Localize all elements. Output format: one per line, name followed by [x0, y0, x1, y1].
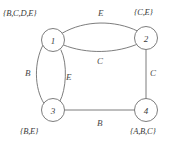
edge-label-1-2-upper: E [98, 9, 104, 18]
node-4-label: 4 [144, 106, 149, 116]
edge-label-1-3-left: B [25, 69, 31, 78]
edge-label-3-4: B [97, 119, 103, 128]
edge-1-2-lower [64, 43, 141, 52]
edge-1-2-upper [63, 23, 138, 33]
edge-label-1-2-lower: C [97, 57, 103, 66]
set-label-node-3: {B,E} [20, 127, 38, 136]
edge-label-1-3-right: E [66, 73, 72, 82]
node-2-label: 2 [144, 34, 149, 44]
set-label-node-4: {A,B,C} [130, 127, 156, 136]
edge-1-3-left [36, 45, 44, 104]
graph-diagram: 1 2 3 4 E C B E C B {B,C,D,E} {C,E} {B,E… [0, 0, 186, 145]
edge-1-3-right [60, 50, 65, 101]
set-label-node-2: {C,E} [134, 8, 153, 17]
set-label-node-1: {B,C,D,E} [3, 9, 37, 18]
node-3-label: 3 [50, 106, 56, 116]
edge-label-2-4: C [150, 69, 156, 78]
node-1-label: 1 [51, 36, 56, 46]
